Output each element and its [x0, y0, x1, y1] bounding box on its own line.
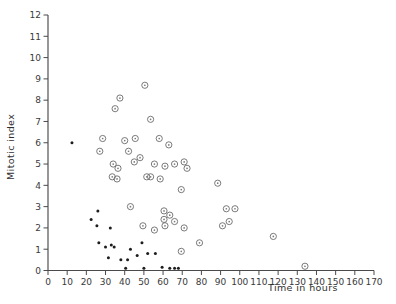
data-point-open-center — [99, 150, 101, 152]
data-point-filled — [177, 267, 180, 270]
data-point-open-center — [199, 242, 201, 244]
data-point-open-center — [117, 167, 119, 169]
data-point-open-center — [164, 165, 166, 167]
data-point-open-center — [234, 208, 236, 210]
data-point-filled — [96, 209, 99, 212]
data-point-filled — [142, 267, 145, 270]
data-point-filled — [70, 141, 73, 144]
data-point-open-center — [163, 210, 165, 212]
y-tick-label: 12 — [30, 10, 41, 20]
data-point-filled — [107, 256, 110, 259]
data-point-open-center — [139, 157, 141, 159]
y-tick-label: 3 — [35, 202, 41, 212]
x-tick-label: 30 — [100, 277, 112, 287]
data-point-filled — [90, 218, 93, 221]
data-point-filled — [110, 243, 113, 246]
x-tick-label: 60 — [157, 277, 169, 287]
y-tick-label: 5 — [35, 159, 41, 169]
data-point-open-center — [186, 167, 188, 169]
x-tick-label: 90 — [215, 277, 227, 287]
data-point-filled — [124, 267, 127, 270]
x-tick-label: 170 — [365, 277, 382, 287]
x-tick-label: 110 — [250, 277, 267, 287]
y-tick-label: 11 — [30, 32, 41, 42]
data-point-open-center — [217, 182, 219, 184]
data-point-open-center — [159, 178, 161, 180]
data-point-filled — [140, 241, 143, 244]
data-point-open-center — [111, 176, 113, 178]
x-tick-label: 0 — [45, 277, 51, 287]
data-point-open-center — [112, 163, 114, 165]
y-axis: 0123456789101112 — [30, 10, 48, 276]
y-tick-label: 6 — [35, 138, 41, 148]
data-point-open-center — [183, 227, 185, 229]
data-point-open-center — [164, 225, 166, 227]
data-point-open-center — [158, 138, 160, 140]
data-point-open-center — [180, 250, 182, 252]
data-point-filled — [168, 267, 171, 270]
series-open-circle — [97, 82, 308, 269]
data-point-open-center — [144, 84, 146, 86]
data-point-filled — [136, 254, 139, 257]
x-tick-label: 160 — [346, 277, 363, 287]
data-point-filled — [95, 224, 98, 227]
data-point-filled — [113, 246, 116, 249]
y-tick-label: 2 — [35, 223, 41, 233]
series-filled-dot — [70, 141, 179, 270]
x-axis-title: Time in hours — [267, 282, 338, 293]
data-points-layer — [70, 82, 308, 270]
y-tick-label: 7 — [35, 117, 41, 127]
data-point-open-center — [133, 161, 135, 163]
data-point-open-center — [163, 219, 165, 221]
data-point-open-center — [222, 225, 224, 227]
data-point-open-center — [174, 221, 176, 223]
y-tick-label: 0 — [35, 266, 41, 276]
y-tick-label: 4 — [35, 181, 41, 191]
data-point-open-center — [114, 108, 116, 110]
data-point-open-center — [142, 225, 144, 227]
data-point-open-center — [128, 150, 130, 152]
x-tick-label: 20 — [81, 277, 93, 287]
data-point-filled — [154, 252, 157, 255]
data-point-filled — [126, 258, 129, 261]
y-axis-title: Mitotic index — [5, 114, 16, 180]
data-point-filled — [146, 252, 149, 255]
data-point-open-center — [180, 189, 182, 191]
data-point-open-center — [102, 138, 104, 140]
x-tick-label: 10 — [61, 277, 73, 287]
data-point-filled — [97, 241, 100, 244]
x-tick-label: 40 — [119, 277, 131, 287]
data-point-open-center — [228, 221, 230, 223]
data-point-open-center — [183, 161, 185, 163]
data-point-open-center — [119, 97, 121, 99]
data-point-open-center — [174, 163, 176, 165]
data-point-open-center — [116, 178, 118, 180]
data-point-open-center — [225, 208, 227, 210]
data-point-filled — [173, 267, 176, 270]
data-point-open-center — [150, 118, 152, 120]
data-point-filled — [109, 226, 112, 229]
data-point-open-center — [124, 140, 126, 142]
y-tick-label: 10 — [30, 53, 42, 63]
scatter-plot-canvas: 0123456789101112 01020304050607080901001… — [0, 0, 396, 304]
data-point-open-center — [304, 265, 306, 267]
scatter-plot-figure: 0123456789101112 01020304050607080901001… — [0, 0, 396, 304]
data-point-open-center — [169, 214, 171, 216]
data-point-filled — [119, 258, 122, 261]
x-tick-label: 100 — [231, 277, 248, 287]
data-point-filled — [161, 266, 164, 269]
x-tick-label: 70 — [177, 277, 189, 287]
data-point-filled — [129, 248, 132, 251]
data-point-open-center — [130, 206, 132, 208]
data-point-filled — [104, 246, 107, 249]
y-tick-label: 1 — [35, 245, 41, 255]
x-tick-label: 80 — [196, 277, 208, 287]
data-point-open-center — [154, 229, 156, 231]
y-tick-label: 9 — [35, 74, 41, 84]
data-point-open-center — [272, 236, 274, 238]
x-tick-label: 50 — [138, 277, 150, 287]
data-point-open-center — [150, 176, 152, 178]
data-point-open-center — [154, 163, 156, 165]
data-point-open-center — [134, 138, 136, 140]
data-point-open-center — [168, 144, 170, 146]
